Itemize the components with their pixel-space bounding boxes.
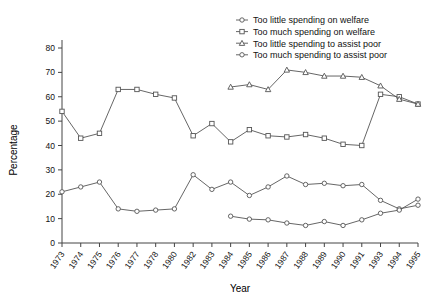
x-tick-label: 1988 xyxy=(291,249,310,270)
data-point xyxy=(210,187,214,191)
data-point xyxy=(378,83,383,88)
series-0 xyxy=(60,173,420,214)
legend-label: Too much spending to assist poor xyxy=(253,50,387,60)
series-2 xyxy=(228,67,421,106)
data-point xyxy=(416,197,420,201)
data-point xyxy=(266,185,270,189)
data-point xyxy=(266,134,270,138)
data-point xyxy=(378,198,382,202)
data-point xyxy=(303,182,307,186)
data-point xyxy=(303,223,307,227)
chart-legend: Too little spending on welfareToo much s… xyxy=(236,15,387,60)
data-point xyxy=(135,87,139,91)
data-point xyxy=(116,87,120,91)
y-tick-label: 0 xyxy=(50,238,55,248)
x-tick-label: 1973 xyxy=(48,249,67,270)
series-3 xyxy=(228,197,420,228)
series-1 xyxy=(60,87,420,147)
data-point xyxy=(228,180,232,184)
chart-container: Too little spending on welfareToo much s… xyxy=(0,0,429,300)
data-point xyxy=(97,180,101,184)
x-tick-label: 1994 xyxy=(385,249,404,270)
y-tick-label: 80 xyxy=(46,43,56,53)
data-point xyxy=(247,82,252,87)
data-point xyxy=(360,218,364,222)
x-tick-label: 1984 xyxy=(216,249,235,270)
data-point xyxy=(247,127,251,131)
x-tick-label: 1975 xyxy=(85,249,104,270)
legend-item[interactable]: Too much spending to assist poor xyxy=(236,50,387,60)
y-tick-label: 30 xyxy=(46,165,56,175)
data-point xyxy=(341,223,345,227)
y-axis-title: Percentage xyxy=(8,124,19,176)
x-tick-label: 1987 xyxy=(272,249,291,270)
data-point xyxy=(60,109,64,113)
data-point xyxy=(378,92,382,96)
data-point xyxy=(397,208,401,212)
data-point xyxy=(360,143,364,147)
chart-axes: 0102030405060708019731974197519761977197… xyxy=(46,40,423,271)
y-tick-label: 70 xyxy=(46,67,56,77)
legend-marker xyxy=(240,29,244,33)
legend-label: Too little spending on welfare xyxy=(253,15,369,25)
x-tick-label: 1986 xyxy=(254,249,273,270)
data-point xyxy=(60,190,64,194)
data-point xyxy=(360,182,364,186)
line-chart: Too little spending on welfareToo much s… xyxy=(0,0,429,300)
y-tick-label: 50 xyxy=(46,116,56,126)
legend-item[interactable]: Too much spending on welfare xyxy=(236,27,375,37)
x-tick-label: 1995 xyxy=(404,249,423,270)
chart-series xyxy=(60,67,421,228)
data-point xyxy=(247,217,251,221)
data-point xyxy=(266,218,270,222)
legend-label: Too much spending on welfare xyxy=(253,27,375,37)
data-point xyxy=(97,131,101,135)
legend-item[interactable]: Too little spending on welfare xyxy=(236,15,369,25)
x-tick-label: 1976 xyxy=(104,249,123,270)
x-tick-label: 1989 xyxy=(310,249,329,270)
x-tick-label: 1977 xyxy=(123,249,142,270)
data-point xyxy=(416,203,420,207)
data-point xyxy=(341,184,345,188)
y-tick-label: 20 xyxy=(46,189,56,199)
data-point xyxy=(135,209,139,213)
x-tick-label: 1974 xyxy=(66,249,85,270)
legend-marker xyxy=(240,53,244,57)
data-point xyxy=(378,211,382,215)
x-tick-label: 1983 xyxy=(197,249,216,270)
x-tick-label: 1982 xyxy=(179,249,198,270)
data-point xyxy=(153,92,157,96)
data-point xyxy=(303,132,307,136)
y-tick-label: 60 xyxy=(46,92,56,102)
data-point xyxy=(191,173,195,177)
data-point xyxy=(116,207,120,211)
data-point xyxy=(322,219,326,223)
data-point xyxy=(322,136,326,140)
data-point xyxy=(284,67,289,72)
data-point xyxy=(322,181,326,185)
y-tick-label: 40 xyxy=(46,141,56,151)
x-tick-label: 1993 xyxy=(366,249,385,270)
data-point xyxy=(210,121,214,125)
x-tick-label: 1978 xyxy=(141,249,160,270)
x-tick-label: 1985 xyxy=(235,249,254,270)
data-point xyxy=(191,134,195,138)
data-point xyxy=(79,185,83,189)
data-point xyxy=(172,96,176,100)
data-point xyxy=(247,193,251,197)
data-point xyxy=(79,136,83,140)
x-axis-title: Year xyxy=(230,283,251,294)
x-tick-label: 1991 xyxy=(347,249,366,270)
data-point xyxy=(228,140,232,144)
legend-marker xyxy=(240,18,244,22)
data-point xyxy=(285,174,289,178)
data-point xyxy=(153,208,157,212)
y-tick-label: 10 xyxy=(46,214,56,224)
x-tick-label: 1980 xyxy=(160,249,179,270)
data-point xyxy=(341,142,345,146)
data-point xyxy=(285,221,289,225)
legend-item[interactable]: Too little spending to assist poor xyxy=(236,39,381,49)
x-tick-label: 1990 xyxy=(329,249,348,270)
data-point xyxy=(285,135,289,139)
data-point xyxy=(172,207,176,211)
